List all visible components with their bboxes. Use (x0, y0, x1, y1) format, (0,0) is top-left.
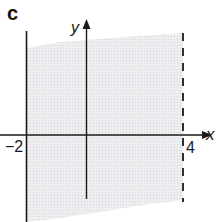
right-boundary-label: 4 (186, 139, 195, 156)
y-axis-label: y (70, 19, 80, 36)
x-axis-label: x (205, 125, 215, 144)
shaded-region (27, 33, 183, 222)
y-axis-arrow-icon (83, 19, 91, 29)
inequality-diagram: c y x −2 4 (0, 0, 220, 222)
left-boundary-label: −2 (5, 138, 23, 155)
part-label: c (7, 2, 18, 24)
